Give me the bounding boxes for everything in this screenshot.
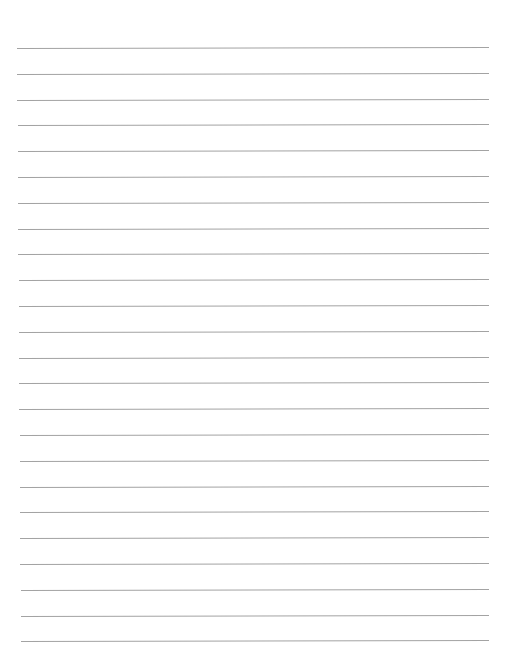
ruled-line [20, 434, 489, 436]
ruled-line [19, 357, 489, 359]
ruled-line [19, 305, 489, 307]
ruled-line [19, 382, 489, 384]
ruled-line [18, 202, 489, 204]
ruled-line [21, 640, 489, 642]
ruled-line [19, 331, 489, 333]
ruled-line [18, 253, 489, 255]
ruled-line [18, 124, 489, 126]
ruled-line [17, 73, 489, 75]
ruled-line [17, 99, 489, 101]
ruled-line [20, 460, 489, 462]
ruled-line [20, 563, 489, 565]
ruled-line [17, 47, 489, 49]
lined-page [0, 0, 511, 668]
ruled-line [18, 176, 489, 178]
ruled-line [19, 408, 489, 410]
ruled-line [20, 511, 489, 513]
ruled-line [21, 589, 489, 591]
ruled-line [21, 615, 489, 617]
ruled-line [20, 486, 489, 488]
ruled-line [18, 150, 489, 152]
ruled-line [20, 537, 489, 539]
ruled-line [19, 279, 489, 281]
ruled-line [18, 228, 489, 230]
